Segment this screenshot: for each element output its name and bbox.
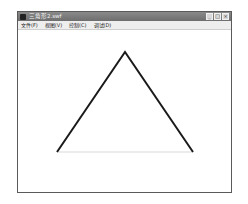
triangle-sides bbox=[57, 52, 193, 152]
triangle-drawing bbox=[0, 0, 248, 204]
